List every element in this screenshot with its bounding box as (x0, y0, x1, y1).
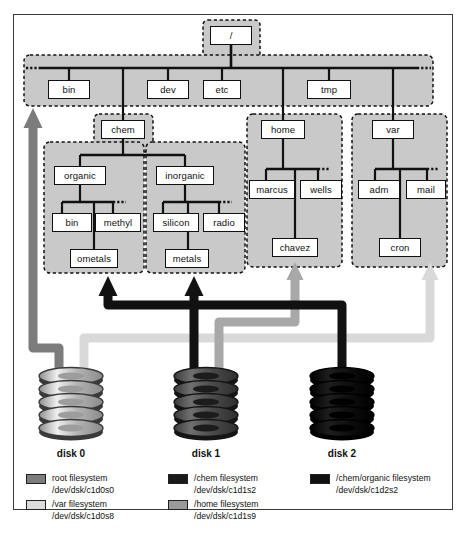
legend-swatch-chem-fs (168, 474, 188, 484)
legend-swatch-var-fs (26, 500, 46, 510)
tree-node-ometals: ometals (70, 249, 118, 268)
legend-name-root-fs: root filesystem (52, 473, 107, 484)
tree-node-inorganic: inorganic (156, 166, 214, 185)
diagram-canvas: .reg{fill:#c9c9c9;stroke:#111111;stroke-… (0, 0, 468, 539)
tree-node-var: var (372, 120, 414, 139)
tree-node-obin: bin (52, 213, 92, 232)
tree-node-dev: dev (147, 80, 189, 99)
tree-node-root: / (210, 26, 252, 45)
tree-node-cron: cron (379, 238, 421, 257)
tree-node-mail: mail (406, 180, 446, 199)
tree-node-bin: bin (48, 80, 90, 99)
legend-swatch-organic-fs (310, 474, 330, 484)
tree-node-silicon: silicon (153, 213, 199, 232)
disk-label-disk1: disk 1 (166, 448, 246, 459)
legend-name-var-fs: /var filesystem (52, 499, 107, 510)
legend-device-organic-fs: /dev/dsk/c1d2s2 (336, 485, 398, 496)
legend-swatch-root-fs (26, 474, 46, 484)
tree-node-radio: radio (203, 213, 245, 232)
tree-node-home: home (261, 120, 305, 139)
legend-name-organic-fs: /chem/organic filesystem (336, 473, 431, 484)
disk-label-disk0: disk 0 (31, 448, 111, 459)
disk-label-disk2: disk 2 (302, 448, 382, 459)
tree-node-tmp: tmp (307, 80, 351, 99)
legend-swatch-home-fs (168, 500, 188, 510)
tree-node-adm: adm (358, 180, 400, 199)
legend-name-home-fs: /home filesystem (194, 499, 258, 510)
tree-node-marcus: marcus (249, 180, 295, 199)
tree-node-methyl: methyl (95, 213, 141, 232)
tree-node-chem: chem (101, 120, 145, 139)
legend-device-home-fs: /dev/dsk/c1d1s9 (194, 511, 256, 522)
tree-node-etc: etc (203, 80, 241, 99)
tree-node-wells: wells (300, 180, 342, 199)
legend-device-root-fs: /dev/dsk/c1d0s0 (52, 485, 114, 496)
tree-node-chavez: chavez (272, 238, 318, 257)
tree-node-metals: metals (165, 249, 209, 268)
legend-device-var-fs: /dev/dsk/c1d0s8 (52, 511, 114, 522)
legend-device-chem-fs: /dev/dsk/c1d1s2 (194, 485, 256, 496)
tree-node-organic: organic (54, 166, 106, 185)
legend-name-chem-fs: /chem filesystem (194, 473, 258, 484)
